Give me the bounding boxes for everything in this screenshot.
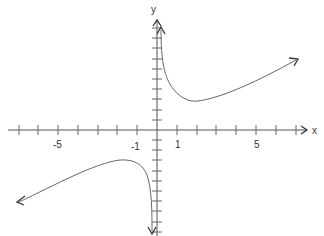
x-tick-label-1: 1 <box>175 139 181 150</box>
curve-arrow-right-icon <box>289 58 298 66</box>
y-axis: y <box>151 4 162 236</box>
x-axis: x -5 -1 1 5 <box>8 125 317 152</box>
function-graph: x -5 -1 1 5 <box>0 0 324 236</box>
x-tick-label-neg1: -1 <box>131 141 140 152</box>
x-axis-label: x <box>312 125 317 136</box>
lower-branch-curve <box>17 160 156 234</box>
upper-branch-curve <box>157 27 298 101</box>
x-tick-label-neg5: -5 <box>53 139 62 150</box>
x-tick-label-5: 5 <box>254 139 260 150</box>
y-axis-label: y <box>151 4 156 15</box>
